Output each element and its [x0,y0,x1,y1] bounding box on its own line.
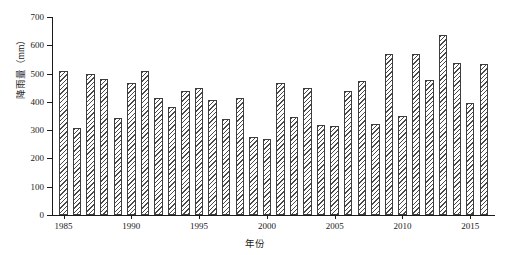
bar-2015 [466,103,474,215]
bar-2006 [344,91,352,215]
bar-2004 [317,125,325,215]
x-tick-2015 [470,215,471,219]
y-tick-label-700: 700 [31,13,45,22]
y-tick-400 [47,102,52,103]
x-axis-line [52,215,495,216]
x-tick-2005 [335,215,336,219]
bar-2016 [480,64,488,215]
bar-2010 [398,116,406,215]
x-tick-label-2010: 2010 [393,221,411,231]
bar-2002 [290,117,298,215]
y-tick-label-600: 600 [31,41,45,50]
bar-2007 [358,81,366,215]
bar-2003 [303,88,311,215]
x-tick-1995 [199,215,200,219]
x-tick-label-2000: 2000 [258,221,276,231]
y-tick-200 [47,158,52,159]
bar-1998 [236,98,244,215]
bar-2005 [330,126,338,215]
y-tick-600 [47,45,52,46]
bar-1997 [222,119,230,215]
y-tick-500 [47,74,52,75]
bar-1986 [73,128,81,215]
bar-2009 [385,54,393,215]
y-axis-line [52,17,53,216]
y-tick-100 [47,187,52,188]
x-tick-1990 [131,215,132,219]
bar-1999 [249,137,257,215]
bar-2011 [412,54,420,215]
y-tick-label-400: 400 [31,97,45,106]
x-tick-label-1995: 1995 [190,221,208,231]
y-tick-label-200: 200 [31,154,45,163]
x-tick-label-1990: 1990 [122,221,140,231]
bar-1992 [154,98,162,215]
x-tick-2000 [267,215,268,219]
bar-2012 [425,80,433,215]
plot-area: 0100200300400500600700 19851990199520002… [52,17,494,215]
bar-1988 [100,79,108,215]
x-tick-label-1985: 1985 [55,221,73,231]
bar-1995 [195,88,203,215]
x-tick-1985 [64,215,65,219]
y-tick-label-300: 300 [31,126,45,135]
bar-2000 [263,139,271,215]
bar-1994 [181,91,189,215]
bar-1993 [168,107,176,215]
y-tick-300 [47,130,52,131]
y-axis-title: 降雨量（mm） [13,17,27,117]
bar-1996 [208,100,216,215]
y-tick-label-0: 0 [40,211,45,220]
bar-1985 [59,71,67,215]
bar-2013 [439,35,447,215]
bar-2008 [371,124,379,215]
y-tick-label-500: 500 [31,69,45,78]
y-tick-700 [47,17,52,18]
bar-2014 [453,63,461,215]
bar-2001 [276,83,284,215]
x-tick-label-2015: 2015 [461,221,479,231]
x-axis-title: 年份 [0,236,509,250]
y-tick-label-100: 100 [31,182,45,191]
bar-1989 [114,118,122,215]
rainfall-bar-chart: 降雨量（mm） 0100200300400500600700 198519901… [0,0,509,255]
x-tick-2010 [402,215,403,219]
x-tick-label-2005: 2005 [326,221,344,231]
y-tick-0 [47,215,52,216]
bar-1990 [127,83,135,215]
bar-1991 [141,71,149,215]
bar-1987 [86,74,94,215]
